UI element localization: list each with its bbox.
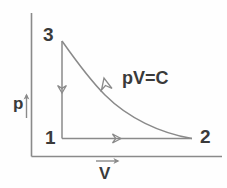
- state-point-label-2: 2: [200, 127, 211, 146]
- pv-diagram-canvas: [0, 0, 227, 188]
- y-axis-label: p: [13, 95, 23, 112]
- state-point-label-1: 1: [45, 128, 56, 147]
- x-axis-label: V: [99, 165, 110, 182]
- pv-diagram: 3 1 2 p V pV=C: [0, 0, 227, 188]
- arrow-up-left-icon: [102, 78, 113, 90]
- state-point-label-3: 3: [43, 25, 54, 44]
- isothermal-curve-annotation: pV=C: [122, 69, 169, 87]
- arrow-up-icon: [24, 94, 30, 119]
- isothermal-curve-pv-equals-c: [62, 41, 192, 139]
